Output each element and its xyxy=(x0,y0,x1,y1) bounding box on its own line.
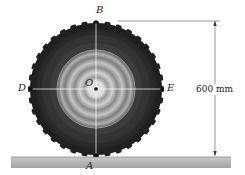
point-B xyxy=(94,20,98,24)
point-E xyxy=(160,87,164,91)
tire-diagram: B A D E O 600 mm xyxy=(0,0,245,175)
ground xyxy=(11,157,231,168)
point-O xyxy=(94,87,98,91)
point-A xyxy=(94,153,98,157)
dimension-arrow-bottom xyxy=(213,151,216,156)
label-A: A xyxy=(86,161,93,171)
label-D: D xyxy=(18,83,26,93)
dimension-arrow-top xyxy=(213,21,216,26)
label-O: O xyxy=(85,78,93,88)
dimension-label: 600 mm xyxy=(196,84,233,95)
point-D xyxy=(29,87,33,91)
label-E: E xyxy=(167,83,174,93)
label-B: B xyxy=(96,5,103,15)
